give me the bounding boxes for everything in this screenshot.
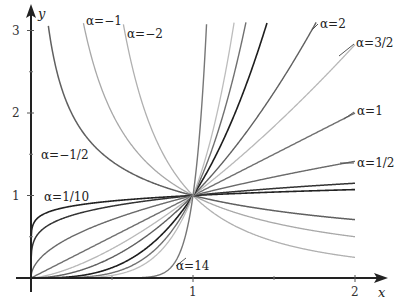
y-axis-label: y [37,6,46,21]
curve-label: α=1 [357,104,383,118]
leader-line [344,112,354,119]
curve-label: α=14 [176,259,210,273]
x-axis-label: x [378,285,386,300]
curve-label: α=−2 [127,27,163,41]
x-tick-label: 1 [189,285,197,299]
curve-label: α=2 [320,17,346,31]
curve-labels: α=−1α=−2α=−1/2α=1/10α=14α=2α=3/2α=1α=1/2 [41,14,394,273]
y-tick-label: 1 [12,189,20,203]
y-tick-label: 2 [12,106,20,120]
x-tick-label: 2 [351,285,359,299]
curve-label: α=3/2 [356,36,393,50]
y-tick-label: 3 [12,24,20,38]
curve-label: α=−1 [86,14,122,28]
curve-label: α=1/10 [44,190,89,204]
curve-label: α=1/2 [357,156,394,170]
power-functions-chart: 12123 x y α=−1α=−2α=−1/2α=1/10α=14α=2α=3… [0,0,410,306]
curve-label: α=−1/2 [41,148,89,162]
